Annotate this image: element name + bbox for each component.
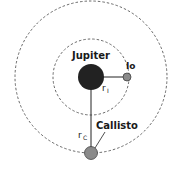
callisto-moon [85,147,98,160]
svg-text:r: r [102,83,106,93]
callisto-pointer [95,132,105,148]
r-callisto-label: r C [78,130,87,141]
io-label: Io [126,61,136,71]
svg-text:C: C [83,134,87,141]
callisto-label: Callisto [96,120,138,131]
svg-text:I: I [107,87,109,94]
svg-text:r: r [78,130,82,140]
io-moon [123,73,131,81]
jupiter-moons-diagram: Jupiter Io Callisto r I r C [0,0,180,170]
jupiter-label: Jupiter [71,50,110,61]
r-io-label: r I [102,83,109,94]
